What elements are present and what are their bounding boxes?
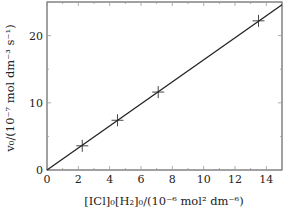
x-tick-label: 2 xyxy=(75,173,82,186)
x-tick-label: 6 xyxy=(138,173,145,186)
x-tick-label: 12 xyxy=(228,173,242,186)
y-axis-label: v₀/(10⁻⁷ mol dm⁻³ s⁻¹) xyxy=(3,24,17,152)
y-tick-label: 10 xyxy=(29,97,43,110)
x-axis-label: [ICl]₀[H₂]₀/(10⁻⁶ mol² dm⁻⁶) xyxy=(84,194,243,208)
x-tick-label: 0 xyxy=(44,173,51,186)
x-tick-label: 10 xyxy=(197,173,211,186)
y-tick-label: 0 xyxy=(36,164,43,177)
fit-line xyxy=(47,5,282,170)
chart: 0246810121401020 [ICl]₀[H₂]₀/(10⁻⁶ mol² … xyxy=(0,0,287,212)
x-tick-label: 4 xyxy=(106,173,113,186)
x-tick-label: 14 xyxy=(259,173,273,186)
y-tick-label: 20 xyxy=(29,30,43,43)
data-series xyxy=(47,5,282,170)
x-tick-label: 8 xyxy=(169,173,176,186)
